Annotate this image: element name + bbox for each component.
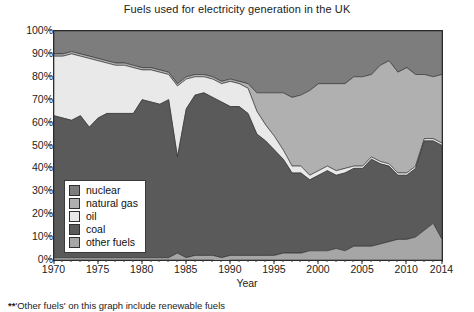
x-tick-label: 1990 bbox=[218, 263, 241, 275]
legend-swatch-nuclear bbox=[69, 185, 80, 196]
x-minor-tick bbox=[79, 260, 80, 262]
legend-label-natural-gas: natural gas bbox=[86, 198, 138, 209]
x-minor-tick bbox=[124, 260, 125, 262]
x-minor-tick bbox=[194, 260, 195, 262]
x-axis-label: Year bbox=[53, 277, 441, 289]
x-tick-label: 1980 bbox=[130, 263, 153, 275]
x-minor-tick bbox=[397, 260, 398, 262]
x-minor-tick bbox=[247, 260, 248, 262]
x-minor-tick bbox=[353, 260, 354, 262]
x-minor-tick bbox=[212, 260, 213, 262]
x-tick-label: 1995 bbox=[262, 263, 285, 275]
footnote-text: 'Other fuels' on this graph include rene… bbox=[15, 300, 225, 311]
x-minor-tick bbox=[379, 260, 380, 262]
x-minor-tick bbox=[309, 260, 310, 262]
legend-label-oil: oil bbox=[86, 211, 97, 222]
x-minor-tick bbox=[265, 260, 266, 262]
legend-label-nuclear: nuclear bbox=[86, 185, 120, 196]
x-minor-tick bbox=[415, 260, 416, 262]
x-minor-tick bbox=[344, 260, 345, 262]
legend-item-nuclear[interactable]: nuclear bbox=[69, 184, 138, 197]
x-minor-tick bbox=[203, 260, 204, 262]
x-minor-tick bbox=[335, 260, 336, 262]
x-minor-tick bbox=[432, 260, 433, 262]
x-tick-label: 2000 bbox=[306, 263, 329, 275]
x-minor-tick bbox=[221, 260, 222, 262]
x-minor-tick bbox=[150, 260, 151, 262]
chart-legend: nuclear natural gas oil coal other fuels bbox=[64, 180, 146, 253]
x-minor-tick bbox=[300, 260, 301, 262]
legend-label-coal: coal bbox=[86, 224, 105, 235]
legend-swatch-natural-gas bbox=[69, 198, 80, 209]
x-minor-tick bbox=[370, 260, 371, 262]
x-minor-tick bbox=[256, 260, 257, 262]
x-minor-tick bbox=[88, 260, 89, 262]
x-tick-label: 1985 bbox=[174, 263, 197, 275]
x-tick-label: 2014 bbox=[430, 263, 453, 275]
x-minor-tick bbox=[291, 260, 292, 262]
x-minor-tick bbox=[106, 260, 107, 262]
footnote: **'Other fuels' on this graph include re… bbox=[8, 300, 225, 311]
x-tick-label: 1975 bbox=[86, 263, 109, 275]
legend-label-other-fuels: other fuels bbox=[86, 237, 135, 248]
chart-figure: Fuels used for electricity generation in… bbox=[0, 0, 474, 312]
x-minor-tick bbox=[159, 260, 160, 262]
x-minor-tick bbox=[115, 260, 116, 262]
x-minor-tick bbox=[168, 260, 169, 262]
legend-swatch-oil bbox=[69, 211, 80, 222]
x-minor-tick bbox=[326, 260, 327, 262]
x-minor-tick bbox=[282, 260, 283, 262]
x-minor-tick bbox=[388, 260, 389, 262]
legend-swatch-coal bbox=[69, 224, 80, 235]
x-tick-label: 2005 bbox=[350, 263, 373, 275]
legend-item-other-fuels[interactable]: other fuels bbox=[69, 236, 138, 249]
x-minor-tick bbox=[62, 260, 63, 262]
x-minor-tick bbox=[176, 260, 177, 262]
legend-item-natural-gas[interactable]: natural gas bbox=[69, 197, 138, 210]
x-tick-label: 1970 bbox=[42, 263, 65, 275]
x-minor-tick bbox=[132, 260, 133, 262]
x-tick-label: 2010 bbox=[395, 263, 418, 275]
x-axis: 1970197519801985199019952000200520102014 bbox=[0, 0, 474, 312]
legend-item-oil[interactable]: oil bbox=[69, 210, 138, 223]
legend-swatch-other-fuels bbox=[69, 237, 80, 248]
legend-item-coal[interactable]: coal bbox=[69, 223, 138, 236]
x-minor-tick bbox=[238, 260, 239, 262]
x-minor-tick bbox=[71, 260, 72, 262]
x-minor-tick bbox=[423, 260, 424, 262]
